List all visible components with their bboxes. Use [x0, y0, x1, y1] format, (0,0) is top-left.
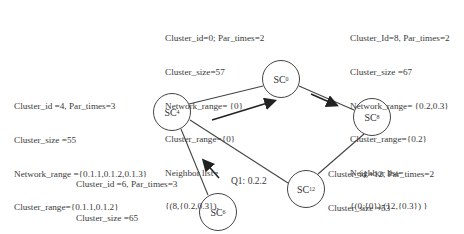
info-line: {(8,{0.2,0.3}),	[165, 201, 264, 212]
info-line: Cluster_id =6, Par_times=3	[76, 179, 177, 190]
info-line: Cluster_size =67	[350, 67, 450, 78]
info-line: Cluster_size=57	[165, 67, 264, 78]
info-box-sc0: Cluster_id=0; Par_times=2 Cluster_size=5…	[165, 11, 264, 234]
info-line: Cluster_id =4, Par_times=3	[14, 101, 147, 112]
info-line: Cluster_size =55	[14, 135, 147, 146]
info-line: Cluster_id =12, Par_times=2	[328, 169, 434, 180]
edge-sc0-sc8	[299, 86, 354, 110]
info-line: Cluster_range={0}	[165, 134, 264, 145]
info-line: Cluster_Id=8, Par_times=2	[350, 33, 450, 44]
info-box-sc6: Cluster_id =6, Par_times=3 Cluster_size …	[76, 157, 177, 234]
node-sc12: SC12	[287, 170, 325, 208]
info-line: Neighbor list=	[165, 168, 264, 179]
arrow-to-sc8	[311, 94, 336, 105]
info-line: Network_range= {0.2,0.3}	[350, 101, 450, 112]
info-box-sc12: Cluster_id =12, Par_times=2 Cluster_size…	[328, 147, 434, 234]
info-line: Cluster_size =53	[328, 203, 434, 214]
info-line: Cluster_range={0.2}	[350, 134, 450, 145]
info-line: Network_range= {0}	[165, 101, 264, 112]
node-sc0: SC0	[262, 60, 300, 98]
info-line: Cluster_id=0; Par_times=2	[165, 33, 264, 44]
info-line: Cluster_size =65	[76, 213, 177, 224]
